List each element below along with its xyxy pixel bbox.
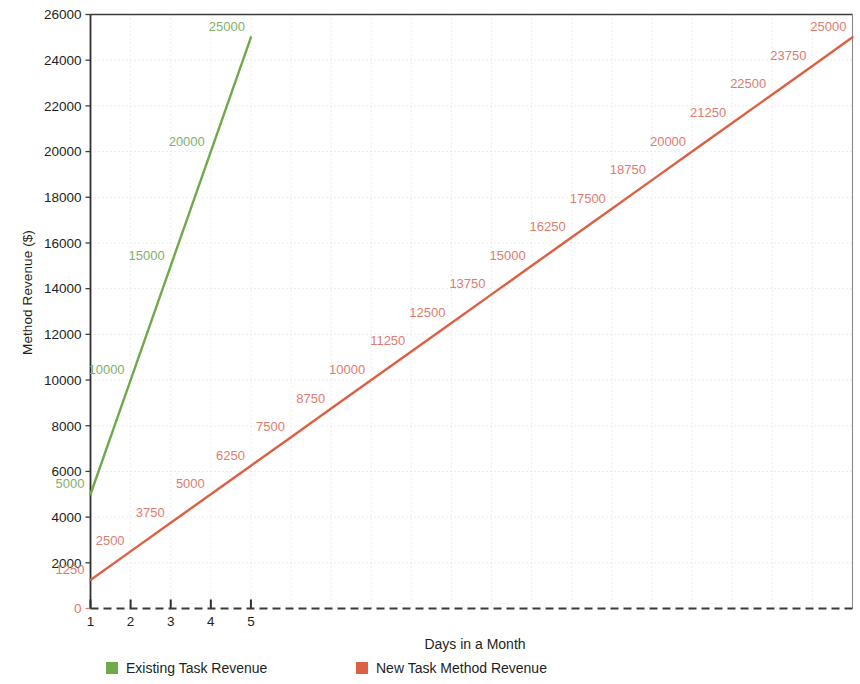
data-label: 5000 (176, 476, 205, 491)
y-tick-label: 24000 (44, 53, 82, 68)
y-tick-label: 26000 (44, 7, 82, 22)
data-label: 10000 (88, 362, 124, 377)
chart-legend: Existing Task Revenue New Task Method Re… (0, 660, 860, 684)
data-label: 7500 (256, 419, 285, 434)
plot-canvas: 0200040006000800010000120001400016000180… (0, 0, 860, 684)
data-label: 15000 (490, 248, 526, 263)
y-tick-label: 22000 (44, 99, 82, 114)
y-tick-label: 12000 (44, 327, 82, 342)
data-label: 20000 (650, 134, 686, 149)
data-label: 22500 (730, 76, 766, 91)
y-tick-label: 20000 (44, 144, 82, 159)
x-tick-label: 5 (247, 614, 255, 629)
data-label: 13750 (449, 276, 485, 291)
x-axis-ticks: 12345 (87, 600, 255, 629)
y-tick-label: 16000 (44, 236, 82, 251)
y-axis-title: Method Revenue ($) (20, 203, 35, 383)
x-tick-label: 4 (207, 614, 215, 629)
y-tick-label: 18000 (44, 190, 82, 205)
legend-item-existing-task-revenue[interactable]: Existing Task Revenue (106, 660, 267, 676)
y-tick-label: 4000 (51, 510, 81, 525)
data-label: 20000 (169, 134, 205, 149)
data-label: 17500 (570, 191, 606, 206)
axis-lines (91, 15, 853, 609)
y-tick-label: 8000 (51, 419, 81, 434)
x-tick-label: 2 (127, 614, 135, 629)
data-label: 18750 (610, 162, 646, 177)
y-axis-ticks: 0200040006000800010000120001400016000180… (44, 7, 91, 616)
data-series (91, 37, 853, 580)
data-label: 3750 (136, 505, 165, 520)
data-label: 8750 (296, 391, 325, 406)
x-tick-label: 3 (167, 614, 175, 629)
data-label: 21250 (690, 105, 726, 120)
series-line-1 (91, 37, 853, 580)
x-tick-label: 1 (87, 614, 95, 629)
data-label: 12500 (409, 305, 445, 320)
gridlines (91, 15, 853, 609)
data-label: 15000 (129, 248, 165, 263)
legend-swatch-green (106, 662, 118, 674)
legend-swatch-red (356, 662, 368, 674)
data-label: 5000 (56, 476, 85, 491)
data-label: 6250 (216, 448, 245, 463)
legend-item-new-task-method-revenue[interactable]: New Task Method Revenue (356, 660, 547, 676)
data-label: 25000 (209, 19, 245, 34)
data-label: 25000 (810, 19, 846, 34)
y-tick-label: 14000 (44, 281, 82, 296)
data-label: 23750 (770, 48, 806, 63)
y-tick-label: 0 (74, 601, 82, 616)
legend-label-new-task-method-revenue: New Task Method Revenue (376, 660, 547, 676)
data-label: 10000 (329, 362, 365, 377)
data-label: 1250 (56, 562, 85, 577)
data-label: 16250 (530, 219, 566, 234)
y-tick-label: 10000 (44, 373, 82, 388)
revenue-line-chart: 0200040006000800010000120001400016000180… (0, 0, 860, 684)
data-label: 2500 (96, 533, 125, 548)
legend-label-existing-task-revenue: Existing Task Revenue (126, 660, 267, 676)
data-label: 11250 (370, 333, 405, 348)
x-axis-title: Days in a Month (355, 636, 595, 652)
